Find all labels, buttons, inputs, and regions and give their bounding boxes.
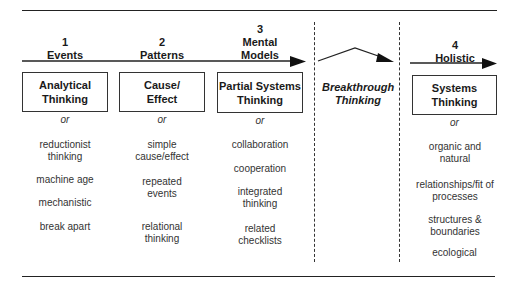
breakthrough-arrow-line	[318, 48, 384, 61]
column-2-item: repeated events	[132, 176, 192, 200]
column-2-number: 2	[119, 36, 205, 49]
column-1-header: 1 Events	[22, 36, 108, 62]
column-3-heading: Mental Models	[235, 36, 285, 62]
breakthrough-label: Breakthrough Thinking	[322, 81, 394, 107]
column-2-box-label: Cause/ Effect	[137, 78, 187, 106]
column-4-number: 4	[412, 39, 498, 52]
column-2-or: or	[119, 114, 205, 125]
column-4-box-label: Systems Thinking	[425, 81, 485, 109]
column-4-item: structures & boundaries	[420, 214, 490, 238]
column-2-item: simple cause/effect	[127, 139, 197, 163]
column-1-or: or	[22, 114, 108, 125]
column-1-item: break apart	[22, 221, 108, 233]
column-3-item: integrated thinking	[225, 186, 295, 210]
column-2-header: 2 Patterns	[119, 36, 205, 62]
column-4-heading: Holistic	[412, 52, 498, 65]
column-3-item: cooperation	[217, 163, 303, 175]
column-4-or: or	[412, 117, 497, 128]
column-3-or: or	[217, 115, 303, 126]
column-4-box: Systems Thinking	[412, 75, 497, 115]
column-1-box: Analytical Thinking	[22, 72, 108, 112]
column-1-item: mechanistic	[22, 197, 108, 209]
column-2-heading: Patterns	[119, 49, 205, 62]
column-1-item: reductionist thinking	[30, 139, 100, 163]
separator-right-dashed	[399, 22, 400, 262]
column-4-item: relationships/fit of processes	[410, 179, 500, 203]
column-1-item: machine age	[22, 174, 108, 186]
column-1-box-label: Analytical Thinking	[30, 78, 100, 106]
column-4-item: ecological	[412, 247, 497, 259]
column-1-heading: Events	[22, 49, 108, 62]
column-3-header: 3 Mental Models	[217, 23, 303, 62]
column-4-header: 4 Holistic	[412, 39, 498, 65]
breakthrough-arrowhead	[376, 53, 394, 62]
column-3-item: related checklists	[225, 223, 295, 247]
column-2-box: Cause/ Effect	[119, 72, 205, 112]
column-2-item: relational thinking	[132, 221, 192, 245]
column-3-box-label: Partial Systems Thinking	[218, 79, 302, 107]
column-3-number: 3	[217, 23, 303, 36]
separator-left-dashed	[314, 22, 315, 262]
column-3-item: collaboration	[217, 139, 303, 151]
column-1-number: 1	[22, 36, 108, 49]
column-4-item: organic and natural	[420, 141, 490, 165]
column-3-box: Partial Systems Thinking	[217, 72, 303, 113]
